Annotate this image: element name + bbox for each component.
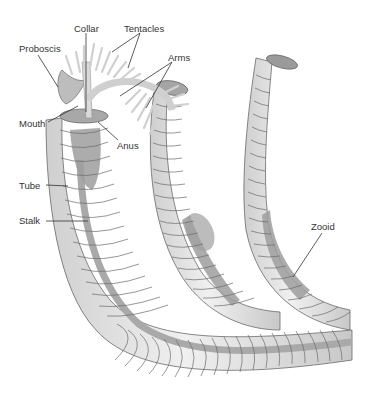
label-tentacles: Tentacles bbox=[124, 24, 164, 34]
label-anus: Anus bbox=[117, 141, 139, 151]
label-proboscis: Proboscis bbox=[19, 44, 61, 54]
label-tube: Tube bbox=[19, 181, 40, 191]
label-mouth: Mouth bbox=[19, 119, 45, 129]
pterobranch-diagram: Collar Tentacles Proboscis Arms Mouth An… bbox=[0, 0, 372, 396]
right-tube bbox=[244, 52, 350, 330]
label-arms: Arms bbox=[168, 53, 190, 63]
label-stalk: Stalk bbox=[19, 216, 40, 226]
label-collar: Collar bbox=[74, 24, 99, 34]
label-zooid: Zooid bbox=[311, 222, 335, 232]
